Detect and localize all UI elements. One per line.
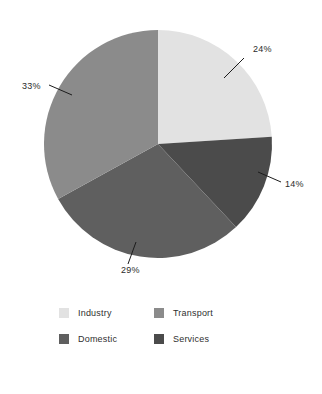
- pie-label-domestic: 29%: [121, 265, 140, 275]
- legend-label-industry: Industry: [78, 308, 112, 318]
- legend-label-domestic: Domestic: [78, 334, 117, 344]
- pie-chart: 24%14%29%33% Industry Transport Domestic…: [0, 0, 322, 394]
- legend-label-services: Services: [173, 334, 209, 344]
- legend-row: Domestic Services: [59, 326, 249, 352]
- pie-label-transport: 33%: [22, 81, 41, 91]
- legend-item-services[interactable]: Services: [154, 334, 249, 344]
- legend-swatch-industry: [59, 308, 69, 318]
- pie-label-industry: 24%: [253, 44, 272, 54]
- legend-swatch-domestic: [59, 334, 69, 344]
- legend-swatch-transport: [154, 308, 164, 318]
- chart-legend: Industry Transport Domestic Services: [59, 300, 249, 352]
- pie-label-services: 14%: [285, 179, 304, 189]
- legend-row: Industry Transport: [59, 300, 249, 326]
- legend-item-industry[interactable]: Industry: [59, 308, 154, 318]
- legend-label-transport: Transport: [173, 308, 213, 318]
- legend-item-transport[interactable]: Transport: [154, 308, 249, 318]
- legend-swatch-services: [154, 334, 164, 344]
- pie-chart-canvas: 24%14%29%33%: [0, 0, 322, 300]
- legend-item-domestic[interactable]: Domestic: [59, 334, 154, 344]
